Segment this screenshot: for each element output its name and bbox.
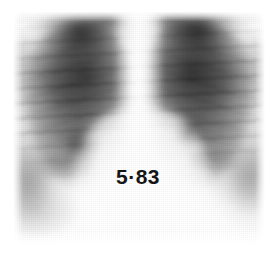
radiograph-annotation-label: 5·83	[0, 166, 276, 187]
page-root: 5·83	[0, 0, 276, 261]
chest-radiograph-image	[13, 12, 265, 250]
film-edge-vignette	[13, 12, 265, 250]
